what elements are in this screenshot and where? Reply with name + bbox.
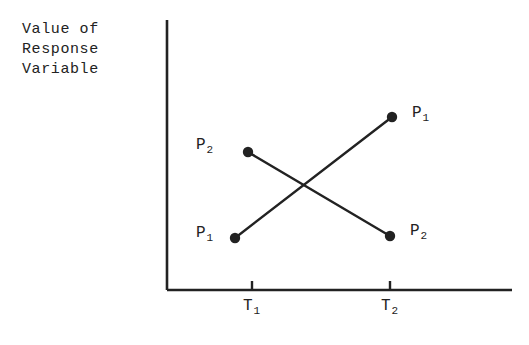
x-tick-label-t1: T1 (243, 297, 261, 317)
point-label-p1-t2-main: P (412, 104, 422, 122)
point-label-p1-t1: P1 (196, 224, 214, 244)
point-label-p1-t2-sub: 1 (423, 112, 430, 124)
point-label-p1-t1-sub: 1 (207, 232, 214, 244)
point-label-p2-t1-sub: 2 (207, 144, 214, 156)
point-label-p2-t1: P2 (196, 136, 214, 156)
point-label-p2-t1-main: P (196, 136, 206, 154)
point-label-p1-t2: P1 (412, 104, 430, 124)
point-label-p2-t2-main: P (410, 222, 420, 240)
data-point-p2-t1 (243, 147, 253, 157)
series-line-p2 (248, 152, 390, 236)
x-tick-label-t2: T2 (381, 297, 399, 317)
data-point-p1-t1 (230, 233, 240, 243)
plot-canvas (0, 0, 529, 345)
interaction-plot-figure: Value of Response Variable P2 P1 P1 P2 T… (0, 0, 529, 345)
point-label-p1-t1-main: P (196, 224, 206, 242)
x-tick-label-t1-main: T (243, 297, 253, 315)
data-point-p2-t2 (385, 231, 395, 241)
x-tick-label-t2-main: T (381, 297, 391, 315)
x-tick-label-t2-sub: 2 (392, 305, 399, 317)
point-label-p2-t2-sub: 2 (421, 230, 428, 242)
point-label-p2-t2: P2 (410, 222, 428, 242)
series-line-p1 (235, 117, 392, 238)
data-point-p1-t2 (387, 112, 397, 122)
x-tick-label-t1-sub: 1 (254, 305, 261, 317)
